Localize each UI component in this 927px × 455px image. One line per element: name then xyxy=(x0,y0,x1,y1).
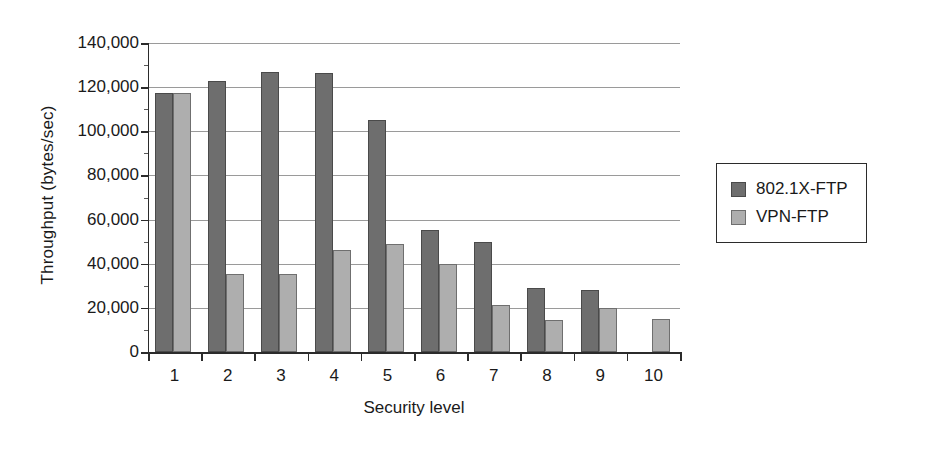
bar xyxy=(155,93,173,352)
x-axis-tick-label: 10 xyxy=(631,366,675,386)
bar-group xyxy=(368,43,407,352)
x-axis-tick-label: 1 xyxy=(153,366,197,386)
bar xyxy=(599,308,617,352)
bar xyxy=(421,230,439,352)
bar xyxy=(208,81,226,352)
bar xyxy=(492,305,510,352)
y-axis-tick-label: 120,000 xyxy=(19,77,139,97)
bar-group xyxy=(315,43,354,352)
legend-label-vpn-ftp: VPN-FTP xyxy=(756,207,829,227)
x-axis-title: Security level xyxy=(148,398,680,418)
y-axis-line xyxy=(148,43,149,353)
x-axis-tick-label: 3 xyxy=(259,366,303,386)
legend-label-802-1x-ftp: 802.1X-FTP xyxy=(756,179,848,199)
bar xyxy=(226,274,244,352)
bar xyxy=(527,288,545,352)
bar xyxy=(652,319,670,352)
bar xyxy=(439,264,457,352)
bar xyxy=(261,72,279,352)
x-axis-tick-label: 4 xyxy=(312,366,356,386)
bar-group xyxy=(581,43,620,352)
bar-group xyxy=(474,43,513,352)
legend-swatch-802-1x-ftp xyxy=(731,182,746,197)
bar-chart: Throughput (bytes/sec) 020,00040,00060,0… xyxy=(0,0,927,455)
bar-group xyxy=(421,43,460,352)
x-axis-tick-label: 8 xyxy=(525,366,569,386)
bar-group xyxy=(634,43,673,352)
x-axis-tick xyxy=(467,352,469,361)
plot-area xyxy=(148,43,680,352)
x-axis-tick xyxy=(148,352,150,361)
x-axis-tick xyxy=(201,352,203,361)
x-axis-tick-label: 5 xyxy=(365,366,409,386)
y-axis-tick-label: 40,000 xyxy=(19,254,139,274)
x-axis-tick xyxy=(520,352,522,361)
x-axis-tick xyxy=(361,352,363,361)
y-axis-tick-label: 60,000 xyxy=(19,210,139,230)
legend-item: 802.1X-FTP xyxy=(731,175,848,203)
bar xyxy=(315,73,333,352)
bar xyxy=(545,320,563,352)
bar xyxy=(474,242,492,352)
bar xyxy=(333,250,351,352)
bar-group xyxy=(155,43,194,352)
x-axis-tick xyxy=(627,352,629,361)
y-axis-tick-label: 140,000 xyxy=(19,33,139,53)
x-axis-tick-label: 7 xyxy=(472,366,516,386)
y-axis-tick-label: 100,000 xyxy=(19,121,139,141)
x-axis-tick xyxy=(308,352,310,361)
y-axis-tick-label: 0 xyxy=(19,342,139,362)
x-axis-tick-label: 9 xyxy=(578,366,622,386)
bar-group xyxy=(208,43,247,352)
legend-item: VPN-FTP xyxy=(731,203,848,231)
bar xyxy=(581,290,599,352)
legend-swatch-vpn-ftp xyxy=(731,210,746,225)
x-axis-tick-label: 2 xyxy=(206,366,250,386)
x-axis-tick xyxy=(414,352,416,361)
x-axis-end-tick xyxy=(680,352,682,361)
bar-group xyxy=(261,43,300,352)
bar xyxy=(173,93,191,352)
bar xyxy=(279,274,297,352)
bar xyxy=(386,244,404,352)
y-axis-title: Throughput (bytes/sec) xyxy=(38,65,58,325)
y-axis-tick-label: 20,000 xyxy=(19,298,139,318)
bar xyxy=(368,120,386,352)
x-axis-tick xyxy=(254,352,256,361)
x-axis-tick xyxy=(574,352,576,361)
chart-legend: 802.1X-FTP VPN-FTP xyxy=(716,163,867,243)
bar-group xyxy=(527,43,566,352)
y-axis-tick-label: 80,000 xyxy=(19,165,139,185)
x-axis-tick-label: 6 xyxy=(419,366,463,386)
